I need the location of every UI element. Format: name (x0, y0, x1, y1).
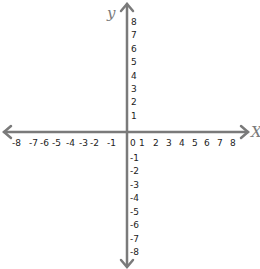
x-tick: 6 (204, 138, 210, 148)
y-tick: 2 (131, 97, 137, 107)
x-tick: 3 (166, 138, 172, 148)
x-tick: 4 (179, 138, 185, 148)
x-tick: 8 (230, 138, 236, 148)
y-axis-label: y (106, 4, 116, 22)
coordinate-plane: X y -8 -7 -6 -5 -4 -3 -2 -1 0 1 2 3 4 5 … (0, 0, 260, 269)
y-tick: 4 (131, 71, 137, 81)
x-tick: -8 (12, 138, 21, 148)
y-tick: -3 (130, 180, 139, 190)
y-tick: -1 (130, 153, 139, 163)
y-tick: 6 (131, 44, 137, 54)
x-tick: -6 (40, 138, 49, 148)
x-tick: -1 (107, 138, 116, 148)
y-tick: -5 (130, 207, 139, 217)
x-tick: -4 (66, 138, 75, 148)
x-tick: 1 (139, 138, 145, 148)
x-tick: -2 (90, 138, 99, 148)
x-tick: 0 (130, 138, 136, 148)
x-tick: 5 (192, 138, 198, 148)
y-tick: 3 (131, 84, 137, 94)
y-tick: -7 (130, 234, 139, 244)
y-tick: 5 (131, 57, 137, 67)
x-tick: -7 (29, 138, 38, 148)
y-tick: 1 (131, 111, 137, 121)
x-axis-label: X (250, 123, 260, 141)
y-tick: -8 (130, 247, 139, 257)
y-tick: 8 (131, 17, 137, 27)
x-tick: 2 (153, 138, 159, 148)
x-tick: -5 (52, 138, 61, 148)
x-tick: 7 (217, 138, 223, 148)
y-tick: -6 (130, 220, 139, 230)
y-tick: 7 (131, 30, 137, 40)
x-tick: -3 (79, 138, 88, 148)
y-tick: -4 (130, 193, 139, 203)
y-tick: -2 (130, 166, 139, 176)
